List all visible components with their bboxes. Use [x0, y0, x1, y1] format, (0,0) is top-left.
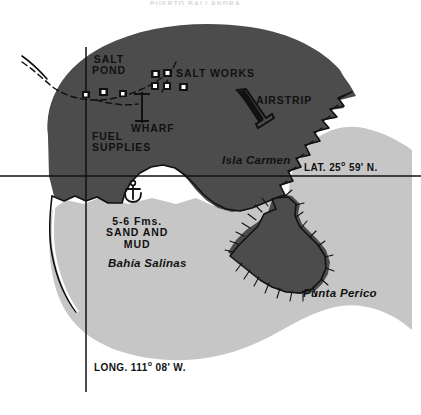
map-figure: PUERTO BALLANDRA	[0, 0, 421, 415]
map-canvas	[0, 0, 421, 415]
salt-pond-solid-edge	[22, 56, 47, 79]
